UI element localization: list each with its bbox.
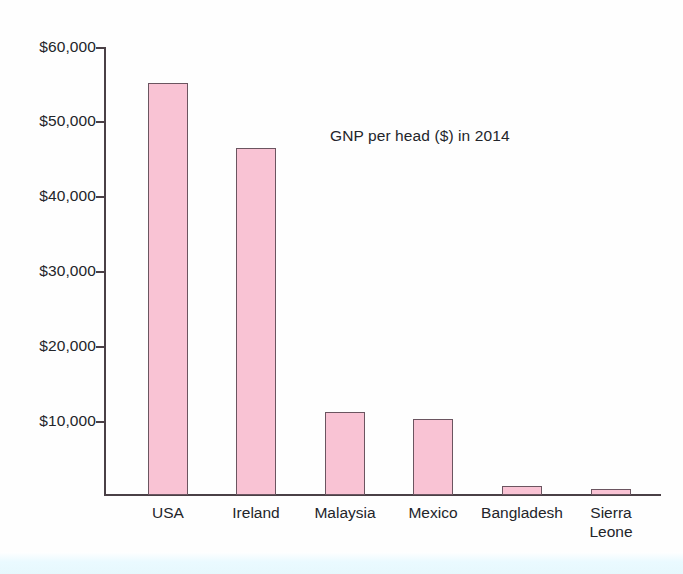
y-tick-mark <box>96 271 105 273</box>
y-tick-label-wrap: $60,000 <box>0 38 96 56</box>
x-label-usa: USA <box>118 503 218 522</box>
bar-malaysia <box>325 412 365 495</box>
x-label-malaysia: Malaysia <box>295 503 395 522</box>
chart-title: GNP per head ($) in 2014 <box>330 127 510 145</box>
gnp-per-head-bar-chart: $60,000 $50,000 $40,000 $30,000 $20,000 … <box>0 0 683 574</box>
y-tick-label: $60,000 <box>4 38 96 56</box>
y-tick-label: $10,000 <box>4 412 96 430</box>
y-tick-label-wrap: $20,000 <box>0 337 96 355</box>
y-tick-label: $50,000 <box>4 112 96 130</box>
y-tick-label-wrap: $40,000 <box>0 187 96 205</box>
bar-bangladesh <box>502 486 542 495</box>
y-tick-label: $30,000 <box>4 262 96 280</box>
y-tick-mark <box>96 121 105 123</box>
y-tick-mark <box>96 47 105 49</box>
y-tick-mark <box>96 196 105 198</box>
y-tick-label-wrap: $50,000 <box>0 112 96 130</box>
x-label-sierra-leone: Sierra Leone <box>561 503 661 541</box>
y-tick-label-wrap: $10,000 <box>0 412 96 430</box>
bar-mexico <box>413 419 453 495</box>
bar-sierra-leone <box>591 489 631 495</box>
y-tick-mark <box>96 346 105 348</box>
y-tick-label: $20,000 <box>4 337 96 355</box>
y-tick-label: $40,000 <box>4 187 96 205</box>
y-tick-label-wrap: $30,000 <box>0 262 96 280</box>
x-label-ireland: Ireland <box>206 503 306 522</box>
bar-ireland <box>236 148 276 495</box>
bar-usa <box>148 83 188 495</box>
y-tick-mark <box>96 421 105 423</box>
